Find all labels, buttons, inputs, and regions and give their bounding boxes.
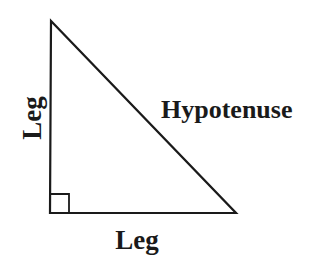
right-triangle-diagram: Leg Leg Hypotenuse — [0, 0, 336, 260]
horizontal-leg-label: Leg — [115, 225, 159, 255]
vertical-leg-label: Leg — [17, 96, 47, 140]
diagram-svg: Leg Leg Hypotenuse — [0, 0, 336, 260]
right-angle-marker — [50, 194, 69, 213]
hypotenuse-label: Hypotenuse — [161, 95, 292, 124]
